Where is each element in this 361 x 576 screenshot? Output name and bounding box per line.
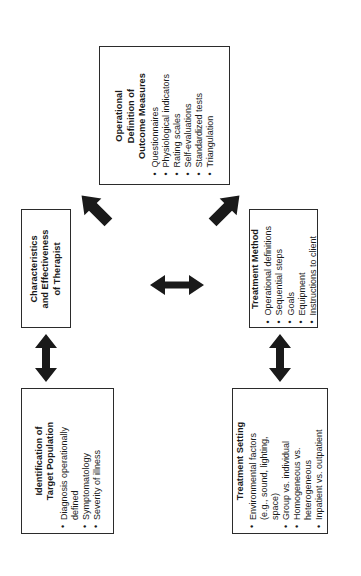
double-arrow-horizontal-icon: [150, 275, 204, 295]
bullet-item: Equipment: [296, 214, 307, 323]
bullet-item: Inpatient vs. outpatient: [314, 394, 325, 528]
bullet-item: Self-evaluations: [182, 56, 193, 175]
bullet-item-continuation: space): [270, 394, 281, 528]
bullet-item-continuation: defined: [69, 394, 80, 528]
bullet-item: Instructions to client: [307, 214, 318, 323]
box-title-treatment-setting: Treatment Setting: [235, 394, 246, 528]
double-arrow-vertical-icon: [35, 334, 57, 382]
bullet-item: Sequential steps: [273, 214, 284, 323]
bullet-item: Symptomatology: [80, 394, 91, 528]
arrow-therapist-to-outcome-measures: [74, 188, 116, 230]
bullet-item-continuation: heterogeneous: [303, 394, 314, 528]
bullet-item: Physiological indicators: [160, 56, 171, 175]
box-therapist: Characteristics and Effectiveness of The…: [21, 209, 71, 328]
box-bullets-treatment-setting: Environmental factors (e.g., sound, ligh…: [248, 394, 326, 528]
box-bullets-target-population: Diagnosis operationally defined Symptoma…: [58, 394, 102, 528]
diagram-canvas: Operational Definition of Outcome Measur…: [0, 0, 361, 576]
arrow-up-right-icon: [73, 187, 117, 231]
arrow-up-left-icon: [204, 187, 248, 231]
bullet-item: Environmental factors: [248, 394, 259, 528]
arrow-treatment-method-to-outcome-measures: [205, 188, 247, 230]
bullet-item: Goals: [285, 214, 296, 323]
bullet-item: Standardized tests: [193, 56, 204, 175]
box-title-target-population: Identification of Target Population: [33, 394, 55, 528]
bullet-item: Rating scales: [171, 56, 182, 175]
box-title-therapist: Characteristics and Effectiveness of The…: [29, 213, 63, 324]
box-bullets-treatment-method: Operational definitions Sequential steps…: [262, 214, 317, 323]
arrow-therapist-to-treatment-method: [148, 272, 206, 298]
bullet-item: Diagnosis operationally: [58, 394, 69, 528]
bullet-item: Severity of illness: [91, 394, 102, 528]
bullet-item: Group vs. individual: [281, 394, 292, 528]
arrow-treatment-method-to-treatment-setting: [267, 333, 293, 383]
box-target-population: Identification of Target Population Diag…: [21, 388, 114, 534]
box-outcome-measures: Operational Definition of Outcome Measur…: [99, 46, 230, 185]
box-treatment-method: Treatment Method Operational definitions…: [249, 209, 318, 328]
arrow-therapist-to-target-population: [33, 333, 59, 383]
box-title-treatment-method: Treatment Method: [249, 214, 260, 323]
double-arrow-vertical-icon: [269, 334, 291, 382]
bullet-item: Operational definitions: [262, 214, 273, 323]
box-treatment-setting: Treatment Setting Environmental factors …: [232, 388, 328, 534]
box-title-outcome-measures: Operational Definition of Outcome Measur…: [113, 56, 147, 175]
bullet-item: Homogeneous vs.: [292, 394, 303, 528]
box-bullets-outcome-measures: Questionnaires Physiological indicators …: [149, 56, 216, 175]
bullet-item-continuation: (e.g., sound, lighting,: [259, 394, 270, 528]
bullet-item: Triangulation: [204, 56, 215, 175]
bullet-item: Questionnaires: [149, 56, 160, 175]
